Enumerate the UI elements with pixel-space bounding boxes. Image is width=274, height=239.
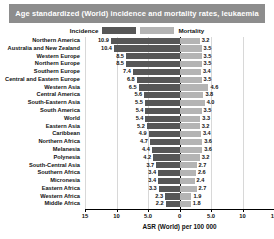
- mortality-bar: [180, 170, 196, 176]
- bar-row: 4.23.2: [85, 154, 274, 162]
- axis-tick-label: 5.0: [144, 213, 152, 219]
- incidence-value: 2.3: [155, 193, 165, 201]
- category-label: Micronesia: [0, 177, 84, 185]
- axis-tick: [180, 209, 181, 212]
- mortality-value: 3.6: [202, 146, 212, 154]
- bar-row: 2.31.9: [85, 193, 274, 201]
- category-labels: Northern AmericaAustralia and New Zealan…: [0, 37, 84, 209]
- incidence-bar: [153, 154, 179, 160]
- incidence-bar: [152, 147, 180, 153]
- incidence-value: 7.4: [123, 68, 133, 76]
- incidence-value: 3.3: [149, 185, 159, 193]
- incidence-value: 5.6: [134, 91, 144, 99]
- mortality-bar: [180, 61, 202, 67]
- mortality-value: 3.5: [202, 45, 212, 53]
- bar-row: 3.32.7: [85, 185, 274, 193]
- bar-row: 5.43.5: [85, 107, 274, 115]
- category-label: Eastern Africa: [0, 185, 84, 193]
- incidence-value: 3.4: [148, 169, 158, 177]
- mortality-value: 3.2: [200, 123, 210, 131]
- axis-tick-label: 10: [113, 213, 119, 219]
- bar-row: 3.72.7: [85, 162, 274, 170]
- category-label: Caribbean: [0, 130, 84, 138]
- incidence-bar: [145, 116, 179, 122]
- incidence-bar: [149, 131, 180, 137]
- mortality-value: 3.5: [202, 76, 212, 84]
- bar-row: 10.43.5: [85, 45, 274, 53]
- mortality-bar: [180, 108, 202, 114]
- mortality-bar: [180, 162, 197, 168]
- axis-tick: [85, 209, 86, 212]
- category-label: Southern Africa: [0, 169, 84, 177]
- mortality-bar: [180, 139, 203, 145]
- mortality-bar: [180, 77, 202, 83]
- axis-tick: [211, 209, 212, 212]
- category-label: Middle Africa: [0, 200, 84, 208]
- mortality-value: 1.9: [191, 193, 201, 201]
- mortality-bar: [180, 38, 200, 44]
- incidence-bar: [145, 100, 180, 106]
- mortality-value: 2.7: [197, 162, 207, 170]
- axis-tick-label: 10: [239, 213, 245, 219]
- incidence-value: 3.4: [148, 177, 158, 185]
- mortality-bar: [180, 131, 201, 137]
- mortality-bar: [180, 116, 201, 122]
- legend-swatch-incidence: [102, 27, 136, 34]
- incidence-bar: [145, 108, 179, 114]
- axis-tick-label: 15: [82, 213, 88, 219]
- chart-legend: Incidence Mortality: [0, 25, 274, 36]
- incidence-value: 2.2: [156, 200, 166, 208]
- category-label: Western Asia: [0, 84, 84, 92]
- chart-container: Age standardized (World) incidence and m…: [0, 0, 274, 239]
- mortality-value: 3.2: [200, 154, 210, 162]
- incidence-bar: [147, 123, 180, 129]
- incidence-value: 5.4: [136, 107, 146, 115]
- x-axis: 15105.005.01015 ASR (World) per 100 000: [85, 209, 274, 239]
- bar-row: 5.23.2: [85, 123, 274, 131]
- mortality-bar: [180, 154, 200, 160]
- mortality-value: 4.0: [205, 99, 215, 107]
- mortality-bar: [180, 45, 202, 51]
- incidence-bar: [126, 61, 180, 67]
- bar-row: 7.43.4: [85, 68, 274, 76]
- category-label: Western Europe: [0, 53, 84, 61]
- category-label: Northern Africa: [0, 138, 84, 146]
- incidence-bar: [133, 69, 180, 75]
- bar-row: 5.54.0: [85, 99, 274, 107]
- mortality-bar: [180, 123, 200, 129]
- legend-label-mortality: Mortality: [178, 27, 204, 34]
- bar-row: 10.93.2: [85, 37, 274, 45]
- mortality-bar: [180, 186, 197, 192]
- category-label: Central and Eastern Europe: [0, 76, 84, 84]
- mortality-value: 3.3: [200, 115, 210, 123]
- mortality-value: 2.6: [196, 169, 206, 177]
- incidence-value: 10.9: [98, 37, 111, 45]
- mortality-value: 3.5: [202, 53, 212, 61]
- axis-tick-label: 5.0: [207, 213, 215, 219]
- incidence-value: 6.8: [127, 76, 137, 84]
- incidence-value: 4.4: [142, 146, 152, 154]
- incidence-bar: [114, 45, 180, 51]
- incidence-bar: [166, 201, 180, 207]
- incidence-value: 8.5: [116, 60, 126, 68]
- axis-tick: [117, 209, 118, 212]
- mortality-value: 3.4: [201, 68, 211, 76]
- legend-label-incidence: Incidence: [70, 27, 99, 34]
- mortality-value: 2.7: [197, 185, 207, 193]
- mortality-value: 3.4: [201, 130, 211, 138]
- bars-area: 10.93.210.43.58.53.58.53.57.43.46.83.56.…: [85, 37, 274, 209]
- bar-row: 6.54.6: [85, 84, 274, 92]
- category-label: Melanesia: [0, 146, 84, 154]
- axis-tick: [243, 209, 244, 212]
- mortality-bar: [180, 100, 205, 106]
- axis-title: ASR (World) per 100 000: [85, 223, 274, 230]
- category-label: South America: [0, 107, 84, 115]
- category-label: Southern Europe: [0, 68, 84, 76]
- bar-row: 3.42.6: [85, 169, 274, 177]
- legend-swatch-mortality: [140, 27, 174, 34]
- chart-title-bar: Age standardized (World) incidence and m…: [9, 4, 265, 23]
- mortality-bar: [180, 147, 203, 153]
- axis-tick-label: 15: [271, 213, 274, 219]
- incidence-value: 4.9: [139, 130, 149, 138]
- incidence-bar: [150, 139, 180, 145]
